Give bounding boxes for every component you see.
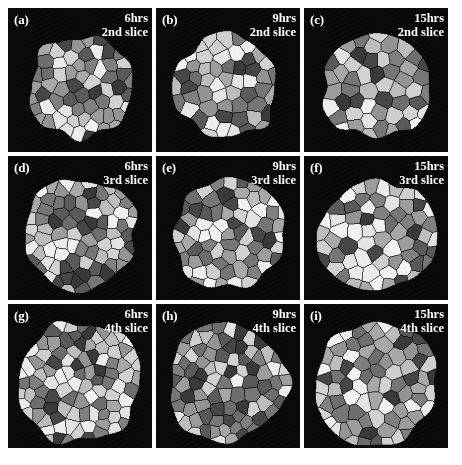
panel-letter-c: (c) — [310, 12, 324, 28]
panel-caption-d: 6hrs 3rd slice — [103, 159, 148, 187]
panel-time-b: 9hrs — [250, 11, 296, 25]
panel-time-c: 15hrs — [398, 11, 444, 25]
panel-a: (a) 6hrs 2nd slice — [8, 8, 152, 152]
panel-letter-f: (f) — [310, 160, 322, 176]
panel-e: (e) 9hrs 3rd slice — [156, 156, 300, 300]
panel-time-i: 15hrs — [401, 307, 444, 321]
panel-slice-i: 4th slice — [401, 321, 444, 335]
panel-time-h: 9hrs — [253, 307, 296, 321]
panel-slice-h: 4th slice — [253, 321, 296, 335]
figure-grid: (a) 6hrs 2nd slice (b) 9hrs 2nd slice (c… — [8, 8, 448, 448]
panel-caption-g: 6hrs 4th slice — [105, 307, 148, 335]
panel-letter-h: (h) — [162, 308, 177, 324]
panel-caption-b: 9hrs 2nd slice — [250, 11, 296, 39]
panel-slice-a: 2nd slice — [102, 25, 148, 39]
panel-d: (d) 6hrs 3rd slice — [8, 156, 152, 300]
panel-letter-d: (d) — [14, 160, 29, 176]
panel-letter-b: (b) — [162, 12, 177, 28]
panel-caption-h: 9hrs 4th slice — [253, 307, 296, 335]
panel-time-a: 6hrs — [102, 11, 148, 25]
panel-slice-c: 2nd slice — [398, 25, 444, 39]
panel-slice-f: 3rd slice — [399, 173, 444, 187]
panel-letter-a: (a) — [14, 12, 29, 28]
panel-letter-g: (g) — [14, 308, 29, 324]
panel-h: (h) 9hrs 4th slice — [156, 304, 300, 448]
panel-slice-e: 3rd slice — [251, 173, 296, 187]
panel-caption-i: 15hrs 4th slice — [401, 307, 444, 335]
panel-f: (f) 15hrs 3rd slice — [304, 156, 448, 300]
panel-i: (i) 15hrs 4th slice — [304, 304, 448, 448]
panel-time-e: 9hrs — [251, 159, 296, 173]
panel-caption-a: 6hrs 2nd slice — [102, 11, 148, 39]
panel-slice-d: 3rd slice — [103, 173, 148, 187]
panel-b: (b) 9hrs 2nd slice — [156, 8, 300, 152]
panel-time-g: 6hrs — [105, 307, 148, 321]
panel-letter-i: (i) — [310, 308, 322, 324]
panel-letter-e: (e) — [162, 160, 176, 176]
panel-slice-b: 2nd slice — [250, 25, 296, 39]
panel-time-f: 15hrs — [399, 159, 444, 173]
panel-time-d: 6hrs — [103, 159, 148, 173]
panel-slice-g: 4th slice — [105, 321, 148, 335]
panel-caption-f: 15hrs 3rd slice — [399, 159, 444, 187]
panel-caption-c: 15hrs 2nd slice — [398, 11, 444, 39]
panel-caption-e: 9hrs 3rd slice — [251, 159, 296, 187]
panel-g: (g) 6hrs 4th slice — [8, 304, 152, 448]
panel-c: (c) 15hrs 2nd slice — [304, 8, 448, 152]
